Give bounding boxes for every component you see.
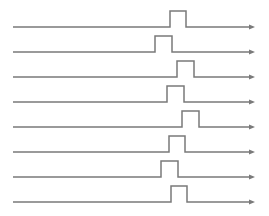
signal-trace-6 [13,136,255,155]
signal-trace-5 [13,111,255,130]
pulse-waveform [13,86,249,102]
arrow-right-icon [249,25,255,30]
signal-trace-8 [13,186,255,205]
pulse-waveform [13,111,249,127]
signal-trace-7 [13,161,255,180]
pulse-waveform [13,11,249,27]
signal-group [13,11,255,205]
signal-trace-1 [13,11,255,30]
arrow-right-icon [249,75,255,80]
signal-trace-4 [13,86,255,105]
pulse-waveform [13,36,249,52]
arrow-right-icon [249,100,255,105]
arrow-right-icon [249,150,255,155]
arrow-right-icon [249,50,255,55]
pulse-waveform [13,61,249,77]
arrow-right-icon [249,125,255,130]
pulse-timing-diagram [0,0,269,216]
arrow-right-icon [249,175,255,180]
signal-trace-2 [13,36,255,55]
pulse-waveform [13,186,249,202]
pulse-waveform [13,136,249,152]
signal-trace-3 [13,61,255,80]
pulse-waveform [13,161,249,177]
arrow-right-icon [249,200,255,205]
